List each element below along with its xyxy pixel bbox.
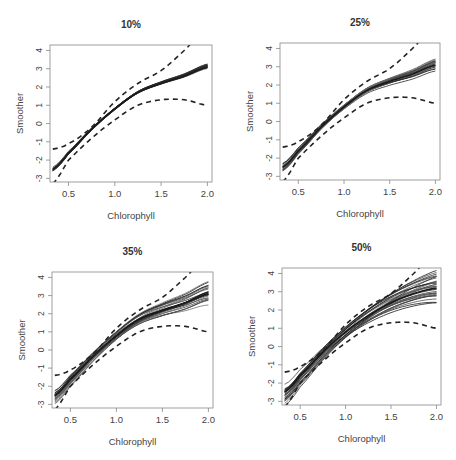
- smoother-line: [283, 62, 436, 169]
- smoother-line: [283, 67, 436, 168]
- smoother-line: [53, 65, 208, 170]
- y-tick-label: 2: [36, 311, 46, 316]
- smoother-line: [283, 71, 436, 167]
- smoother-line: [285, 294, 437, 395]
- x-axis-label: Chlorophyll: [336, 208, 384, 219]
- x-tick-label: 1.0: [108, 188, 121, 199]
- smoother-line: [55, 299, 209, 397]
- y-tick-label: -3: [34, 174, 44, 182]
- x-tick-label: 0.5: [62, 188, 75, 199]
- y-tick-label: -2: [36, 382, 46, 390]
- x-tick-label: 1.0: [339, 411, 352, 422]
- x-tick-label: 1.0: [337, 186, 350, 197]
- x-tick-label: 1.5: [156, 414, 169, 425]
- smoother-line: [53, 64, 208, 170]
- smoother-line: [55, 295, 209, 395]
- x-tick-label: 1.0: [110, 414, 123, 425]
- chart-panel-50pct: 0.51.01.52.0-3-2-10123450%ChlorophyllSmo…: [246, 242, 443, 444]
- x-tick-label: 1.5: [384, 411, 397, 422]
- y-tick-label: -3: [36, 400, 46, 408]
- smoother-line: [53, 67, 208, 170]
- plot-area: [283, 27, 436, 182]
- panel-title: 25%: [350, 17, 370, 28]
- smoother-line: [53, 66, 208, 171]
- panel-title: 50%: [351, 242, 371, 253]
- smoother-line: [285, 292, 437, 401]
- plot-area: [53, 29, 208, 184]
- x-tick-label: 1.5: [154, 188, 167, 199]
- y-tick-label: 0: [266, 344, 276, 349]
- y-tick-label: -2: [264, 154, 274, 162]
- y-tick-label: 1: [34, 103, 44, 108]
- smoother-line: [285, 289, 437, 396]
- smoother-line: [283, 62, 436, 170]
- y-tick-label: 3: [36, 293, 46, 298]
- y-tick-label: -3: [264, 172, 274, 180]
- y-axis-label: Smoother: [244, 91, 255, 132]
- x-tick-label: 0.5: [294, 411, 307, 422]
- y-tick-label: 4: [36, 275, 46, 280]
- smoother-line: [55, 292, 209, 403]
- smoother-line: [283, 61, 436, 170]
- band-upper-confidence-line: [283, 27, 436, 148]
- y-tick-label: -1: [266, 361, 276, 369]
- smoother-line: [53, 66, 208, 170]
- smoother-line: [55, 292, 209, 397]
- y-tick-label: 3: [266, 289, 276, 294]
- y-tick-label: 0: [36, 347, 46, 352]
- x-axis-label: Chlorophyll: [107, 210, 155, 221]
- smoother-line: [55, 294, 209, 399]
- band-lower-confidence-line: [285, 322, 437, 407]
- y-tick-label: 1: [266, 326, 276, 331]
- y-tick-label: -1: [34, 138, 44, 146]
- smoother-line: [53, 66, 208, 170]
- smoother-line: [53, 67, 208, 170]
- band-upper-confidence-line: [55, 256, 209, 376]
- x-tick-label: 1.5: [383, 186, 396, 197]
- y-tick-label: -1: [36, 364, 46, 372]
- y-axis-label: Smoother: [16, 319, 27, 360]
- panel-title: 10%: [121, 19, 141, 30]
- x-tick-label: 0.5: [64, 414, 77, 425]
- y-axis-label: Smoother: [14, 93, 25, 134]
- y-tick-label: 0: [34, 121, 44, 126]
- chart-panel-10pct: 0.51.01.52.0-3-2-10123410%ChlorophyllSmo…: [14, 19, 214, 221]
- y-tick-label: 3: [264, 64, 274, 69]
- x-tick-label: 2.0: [201, 188, 214, 199]
- panel-title: 35%: [122, 246, 142, 257]
- chart-panel-35pct: 0.51.01.52.0-3-2-10123435%ChlorophyllSmo…: [16, 246, 215, 447]
- smoother-line: [285, 295, 437, 399]
- y-tick-label: 0: [264, 119, 274, 124]
- y-tick-label: 3: [34, 66, 44, 71]
- y-tick-label: -1: [264, 136, 274, 144]
- smoother-line: [55, 300, 209, 395]
- y-axis-label: Smoother: [246, 316, 257, 357]
- plot-area: [55, 256, 209, 410]
- smoother-line: [285, 287, 437, 398]
- y-tick-label: 4: [266, 271, 276, 276]
- smoother-line: [283, 66, 436, 164]
- smoother-line: [55, 294, 209, 400]
- smoother-line: [53, 67, 208, 169]
- y-tick-label: 2: [266, 307, 276, 312]
- band-lower-confidence-line: [283, 97, 436, 182]
- smoother-line: [285, 284, 437, 401]
- y-tick-label: 2: [264, 82, 274, 87]
- plot-frame: [50, 45, 212, 182]
- y-tick-label: -3: [266, 397, 276, 405]
- smoother-line: [283, 64, 436, 168]
- y-tick-label: 4: [34, 48, 44, 53]
- smoother-line: [53, 69, 208, 170]
- smoother-line: [53, 66, 208, 169]
- band-upper-confidence-line: [53, 29, 208, 150]
- y-tick-label: 1: [36, 329, 46, 334]
- x-tick-label: 0.5: [292, 186, 305, 197]
- plot-area: [285, 252, 437, 407]
- band-lower-confidence-line: [53, 99, 208, 184]
- y-tick-label: -2: [266, 379, 276, 387]
- y-tick-label: 1: [264, 101, 274, 106]
- smoother-line: [53, 67, 208, 170]
- figure-canvas: 0.51.01.52.0-3-2-10123410%ChlorophyllSmo…: [0, 0, 456, 460]
- x-tick-label: 2.0: [429, 186, 442, 197]
- x-axis-label: Chlorophyll: [109, 436, 157, 447]
